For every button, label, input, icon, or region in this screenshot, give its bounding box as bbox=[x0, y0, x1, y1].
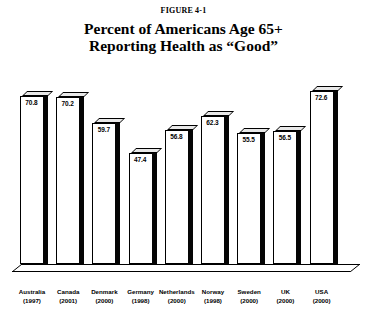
bar-germany: 47.4 bbox=[129, 148, 159, 264]
bar-value-label: 56.8 bbox=[165, 133, 188, 140]
bar-side-face bbox=[79, 94, 84, 264]
bar-series: 70.870.259.747.456.862.355.556.572.6 bbox=[0, 62, 367, 271]
plot-area: 70.870.259.747.456.862.355.556.572.6 bbox=[0, 62, 367, 284]
bar-value-label: 47.4 bbox=[129, 156, 152, 163]
x-axis-labels: Australia(1997)Canada(2001)Denmark(2000)… bbox=[0, 288, 367, 320]
bar-top-face bbox=[275, 126, 306, 131]
bar-front-face bbox=[165, 130, 188, 264]
bar-top-face bbox=[239, 128, 270, 133]
bar-side-face bbox=[333, 88, 338, 264]
bar-top-face bbox=[58, 92, 89, 97]
chart-title-line-1: Percent of Americans Age 65+ bbox=[18, 20, 349, 37]
bar-body: 72.6 bbox=[310, 86, 340, 264]
bar-value-label: 72.6 bbox=[310, 94, 333, 101]
bar-side-face bbox=[260, 130, 265, 264]
bar-front-face bbox=[237, 133, 260, 264]
plot-baseline bbox=[12, 264, 360, 278]
bar-value-label: 70.8 bbox=[20, 99, 43, 106]
bar-side-face bbox=[43, 93, 48, 264]
bar-side-face bbox=[224, 113, 229, 264]
baseline-back-edge bbox=[21, 264, 360, 265]
bar-norway: 62.3 bbox=[201, 111, 231, 264]
bar-usa: 72.6 bbox=[310, 86, 340, 264]
bar-body: 47.4 bbox=[129, 148, 159, 264]
bar-body: 62.3 bbox=[201, 111, 231, 264]
baseline-right-edge bbox=[350, 264, 360, 272]
bar-front-face bbox=[201, 116, 224, 264]
bar-value-label: 56.5 bbox=[273, 134, 296, 141]
bar-australia: 70.8 bbox=[20, 91, 50, 264]
x-label-year: (2000) bbox=[296, 297, 348, 306]
x-label-country: USA bbox=[296, 288, 348, 297]
bar-value-label: 62.3 bbox=[201, 119, 224, 126]
bar-body: 70.2 bbox=[56, 92, 86, 264]
bar-front-face bbox=[310, 91, 333, 264]
bar-netherlands: 56.8 bbox=[165, 125, 195, 264]
bar-canada: 70.2 bbox=[56, 92, 86, 264]
chart-title-line-2: Reporting Health as “Good” bbox=[18, 37, 349, 54]
figure-caption: FIGURE 4-1 bbox=[0, 6, 367, 15]
bar-front-face bbox=[129, 153, 152, 264]
bar-side-face bbox=[296, 128, 301, 264]
bar-denmark: 59.7 bbox=[92, 118, 122, 264]
bar-side-face bbox=[152, 150, 157, 264]
bar-value-label: 59.7 bbox=[92, 126, 115, 133]
baseline-left-edge bbox=[12, 264, 22, 272]
baseline-front-edge bbox=[12, 271, 350, 272]
bar-top-face bbox=[167, 125, 198, 130]
bar-body: 70.8 bbox=[20, 91, 50, 264]
bar-top-face bbox=[312, 86, 343, 91]
bar-side-face bbox=[188, 127, 193, 264]
bar-body: 59.7 bbox=[92, 118, 122, 264]
bar-value-label: 70.2 bbox=[56, 100, 79, 107]
x-label-usa: USA(2000) bbox=[296, 288, 348, 305]
bar-top-face bbox=[94, 118, 125, 123]
bar-side-face bbox=[115, 120, 120, 264]
bar-top-face bbox=[22, 91, 53, 96]
chart-title: Percent of Americans Age 65+ Reporting H… bbox=[0, 20, 367, 54]
bar-top-face bbox=[203, 111, 234, 116]
bar-front-face bbox=[273, 131, 296, 264]
bar-value-label: 55.5 bbox=[237, 136, 260, 143]
bar-front-face bbox=[92, 123, 115, 264]
bar-body: 56.8 bbox=[165, 125, 195, 264]
bar-body: 56.5 bbox=[273, 126, 303, 264]
bar-body: 55.5 bbox=[237, 128, 267, 264]
bar-front-face bbox=[20, 96, 43, 264]
bar-sweden: 55.5 bbox=[237, 128, 267, 264]
bar-front-face bbox=[56, 97, 79, 264]
bar-top-face bbox=[131, 148, 162, 153]
bar-uk: 56.5 bbox=[273, 126, 303, 264]
